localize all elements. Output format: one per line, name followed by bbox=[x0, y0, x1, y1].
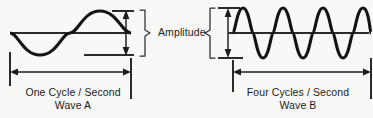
arrow-head-right bbox=[363, 69, 371, 76]
wave-b-span-arrow bbox=[233, 69, 371, 76]
wave-diagram-figure: Amplitude One Cycle / Second Wave A Four… bbox=[0, 0, 373, 118]
wave-a-caption: One Cycle / Second Wave A bbox=[6, 86, 140, 112]
wave-a-frequency-label: One Cycle / Second bbox=[25, 86, 120, 98]
arrow-head-up bbox=[225, 8, 232, 17]
arrow-head-down bbox=[225, 49, 232, 58]
arrow-head-left bbox=[10, 69, 18, 76]
arrow-head-left bbox=[233, 69, 241, 76]
wave-a-name-label: Wave A bbox=[6, 99, 140, 112]
amplitude-label: Amplitude bbox=[158, 26, 206, 38]
amplitude-brace-right bbox=[205, 8, 215, 58]
amplitude-brace-left bbox=[140, 10, 150, 56]
wave-a-span-arrow bbox=[10, 69, 131, 76]
wave-b-frequency-label: Four Cycles / Second bbox=[247, 86, 349, 98]
wave-b-caption: Four Cycles / Second Wave B bbox=[228, 86, 368, 112]
wave-a-amplitude-dimension bbox=[123, 10, 150, 56]
arrow-head-right bbox=[123, 69, 131, 76]
wave-b-name-label: Wave B bbox=[228, 99, 368, 112]
